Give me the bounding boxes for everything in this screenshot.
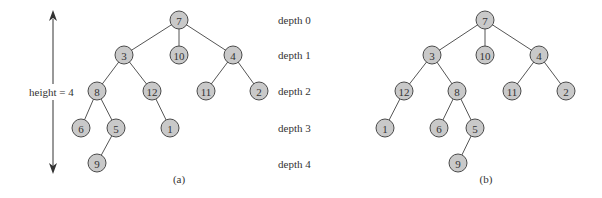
node-label: 11: [507, 86, 518, 98]
tree-node: 5: [466, 119, 484, 137]
tree-node: 3: [423, 46, 441, 64]
tree-edge: [124, 20, 179, 55]
node-label: 12: [147, 86, 158, 98]
tree-node: 12: [395, 82, 413, 100]
tree-node: 5: [107, 119, 125, 137]
node-label: 2: [256, 86, 262, 98]
tree-node: 11: [197, 82, 215, 100]
node-label: 3: [121, 50, 127, 62]
node-label: 10: [480, 50, 492, 62]
node-label: 4: [536, 50, 542, 62]
node-label: 6: [78, 123, 84, 135]
tree-edge: [179, 20, 233, 55]
node-label: 9: [455, 158, 461, 170]
tree-edge: [485, 20, 539, 55]
tree-node: 4: [530, 46, 548, 64]
tree-node: 12: [143, 82, 161, 100]
node-label: 2: [563, 86, 569, 98]
node-label: 3: [429, 50, 435, 62]
tree-node: 2: [250, 82, 268, 100]
node-label: 10: [174, 50, 186, 62]
node-label: 5: [113, 123, 119, 135]
tree-node: 10: [170, 46, 188, 64]
depth-label-4: depth 4: [278, 158, 311, 170]
tree-b: 731041281121659 (b): [376, 11, 575, 186]
tree-diagram: height = 4 depth 0 depth 1 depth 2 depth…: [0, 0, 602, 198]
depth-label-0: depth 0: [278, 14, 311, 26]
tree-a: 731048121126519 (a): [72, 11, 268, 186]
height-label: height = 4: [29, 86, 74, 98]
tree-node: 10: [476, 46, 494, 64]
depth-labels: depth 0 depth 1 depth 2 depth 3 depth 4: [278, 14, 311, 170]
tree-node: 11: [503, 82, 521, 100]
tree-node: 6: [430, 119, 448, 137]
tree-node: 9: [88, 154, 106, 172]
tree-node: 7: [476, 11, 494, 29]
node-label: 7: [482, 15, 488, 27]
tree-node: 3: [115, 46, 133, 64]
tree-node: 7: [170, 11, 188, 29]
node-label: 12: [399, 86, 410, 98]
depth-label-2: depth 2: [278, 85, 311, 97]
node-label: 5: [472, 123, 478, 135]
tree-edge: [432, 20, 485, 55]
depth-label-1: depth 1: [278, 49, 311, 61]
tree-node: 4: [224, 46, 242, 64]
tree-a-caption: (a): [173, 173, 186, 186]
tree-b-nodes: 731041281121659: [376, 11, 575, 172]
tree-node: 9: [449, 154, 467, 172]
tree-a-nodes: 731048121126519: [72, 11, 268, 172]
node-label: 1: [382, 123, 388, 135]
node-label: 4: [230, 50, 236, 62]
node-label: 11: [201, 86, 212, 98]
node-label: 8: [454, 86, 460, 98]
node-label: 9: [94, 158, 100, 170]
tree-node: 8: [88, 82, 106, 100]
tree-node: 2: [557, 82, 575, 100]
node-label: 6: [436, 123, 442, 135]
tree-node: 1: [376, 119, 394, 137]
tree-b-caption: (b): [480, 173, 493, 186]
node-label: 7: [176, 15, 182, 27]
tree-node: 8: [448, 82, 466, 100]
depth-label-3: depth 3: [278, 122, 311, 134]
node-label: 8: [94, 86, 100, 98]
tree-a-edges: [81, 20, 259, 163]
node-label: 1: [167, 123, 173, 135]
tree-node: 1: [161, 119, 179, 137]
tree-node: 6: [72, 119, 90, 137]
